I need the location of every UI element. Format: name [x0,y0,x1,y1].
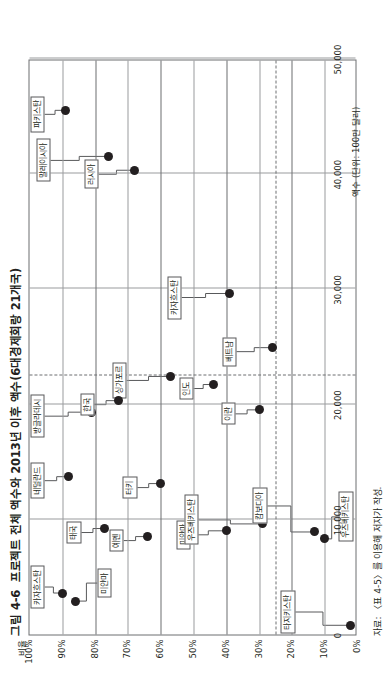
x-gridline [29,57,355,58]
y-gridline [259,60,260,634]
y-gridline [127,60,128,634]
y-axis-tick-label: 30% [253,639,263,658]
data-point-callout: 싱가포르 [112,362,126,398]
y-axis-tick-label: 70% [121,639,131,658]
data-point[interactable] [310,527,319,536]
y-axis-tick-label: 50% [187,639,197,658]
data-point[interactable] [208,380,217,389]
y-axis-tick-label: 60% [154,639,164,658]
data-point-callout: 카자흐스탄 [30,565,44,608]
data-point-callout: 타지키스탄 [280,590,294,633]
y-axis-tick-label: 80% [89,639,99,658]
data-point[interactable] [267,343,276,352]
rotated-figure-canvas: 그림 4-6 프로젝트 전체 액수와 2013년 이후 액수(6대경제회랑 21… [0,0,391,693]
figure-number: 그림 4-6 [8,589,22,635]
data-point[interactable] [221,526,230,535]
data-point[interactable] [61,105,70,114]
data-point[interactable] [64,472,73,481]
x-axis-title: 액수 (단위: 100만 달러) [348,106,360,196]
x-axis-tick-label: 10,000 [332,505,342,535]
y-gridline [193,60,194,634]
x-gridline [29,403,355,404]
data-point-callout: 터키 [122,476,136,498]
y-axis-tick-label: 90% [56,639,66,658]
data-point[interactable] [225,289,234,298]
callout-leader-line [126,376,170,380]
data-point-callout: 인도 [179,377,193,399]
data-point-callout: 방글라데시 [30,394,44,437]
data-point[interactable] [346,620,355,629]
data-point-callout: 네덜란드 [30,462,44,498]
data-point[interactable] [57,588,66,597]
x-axis-tick-label: 30,000 [332,275,342,305]
figure-page: 그림 4-6 프로젝트 전체 액수와 2013년 이후 액수(6대경제회랑 21… [0,0,391,693]
x-gridline [29,172,355,173]
data-point[interactable] [129,165,138,174]
y-axis-title: 비율 [14,639,26,655]
data-point[interactable] [166,371,175,380]
data-point[interactable] [156,479,165,488]
callout-leader-line [236,347,272,351]
data-point-callout: 예멘 [109,529,123,551]
data-point-callout: 캄보디아 [252,487,266,523]
x-reference-line [29,374,355,375]
figure-title-text: 프로젝트 전체 액수와 2013년 이후 액수(6대경제회랑 21개국) [8,267,22,581]
y-axis-tick-label: 10% [318,639,328,658]
data-point-callout: 파키스탄 [30,96,44,132]
y-gridline [291,60,292,634]
y-axis-tick-label: 40% [220,639,230,658]
y-gridline [95,60,96,634]
data-point-callout: 말레이시아 [36,138,50,181]
data-point[interactable] [113,396,122,405]
data-point-callout: 우즈베키스탄 [184,494,198,544]
figure-title: 그림 4-6 프로젝트 전체 액수와 2013년 이후 액수(6대경제회랑 21… [6,267,22,635]
y-axis-tick-label: 0% [351,639,361,653]
data-point-callout: 태국 [66,521,80,543]
x-axis-tick-label: 50,000 [332,44,342,74]
source-note: 자료: 〈표 4-5〉를 이용해 저자가 작성. [370,486,383,635]
x-axis-tick-label: 40,000 [332,159,342,189]
y-gridline [62,60,63,634]
data-point[interactable] [320,534,329,543]
data-point[interactable] [103,151,112,160]
data-point[interactable] [143,532,152,541]
callout-leader-line [50,156,108,160]
y-gridline [324,60,325,634]
callout-leader-line [294,612,350,625]
y-gridline [160,60,161,634]
data-point[interactable] [254,405,263,414]
x-axis-tick-label: 0 [332,632,342,637]
data-point-callout: 한국 [80,393,94,415]
data-point-callout: 베트남 [222,337,236,366]
callout-leader-line [181,293,229,297]
x-axis-tick-label: 20,000 [332,390,342,420]
data-point[interactable] [100,524,109,533]
data-point-callout: 카자흐스탄 [167,276,181,319]
x-gridline [29,287,355,288]
data-point-callout: 이란 [221,402,235,424]
y-axis-tick-label: 20% [285,639,295,658]
data-point[interactable] [70,596,79,605]
data-point-callout: 미얀마 [97,568,111,597]
plot-area: 파키스탄말레이시아러시아카자흐스탄싱가포르인도베트남방글라데시한국이란네덜란드터… [28,59,356,635]
data-point-callout: 러시아 [84,159,98,188]
